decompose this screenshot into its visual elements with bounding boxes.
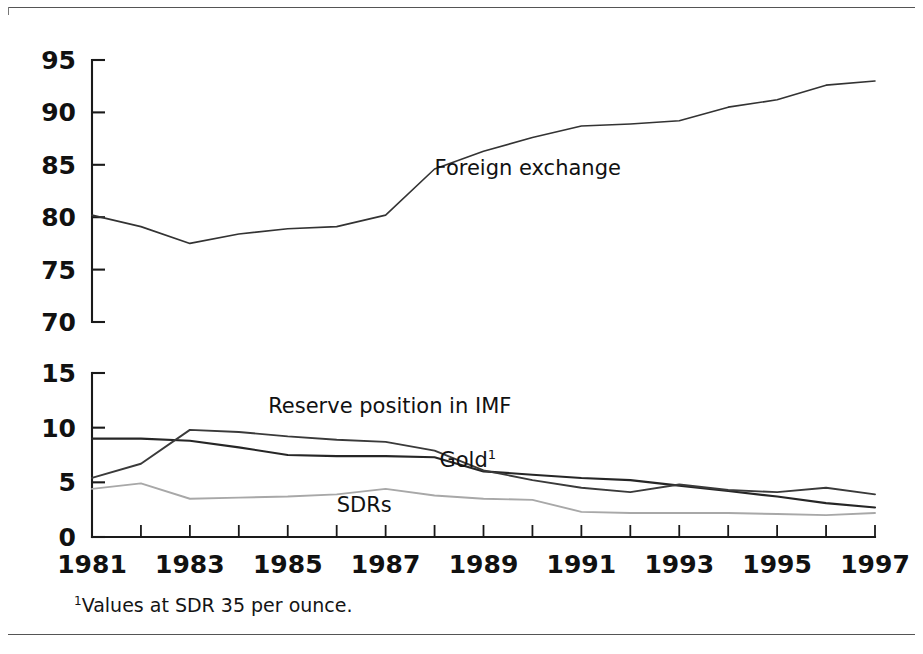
- bottom-chart-panel: 0510151981198319851987198919911993199519…: [41, 359, 910, 579]
- y-axis-tick-label: 15: [41, 359, 76, 388]
- series-label-foreign-exchange: Foreign exchange: [435, 156, 621, 180]
- y-axis-tick-label: 80: [41, 203, 76, 232]
- series-label-gold: Gold1: [439, 447, 496, 472]
- footnote-text: Values at SDR 35 per ounce.: [82, 594, 353, 616]
- x-axis-tick-label: 1985: [253, 550, 323, 579]
- x-axis-tick-label: 1983: [155, 550, 225, 579]
- y-axis-tick-label: 0: [59, 523, 76, 552]
- y-axis-tick-label: 5: [59, 468, 76, 497]
- footnote: 1Values at SDR 35 per ounce.: [74, 594, 353, 616]
- y-axis-tick-label: 75: [41, 256, 76, 285]
- series-label-reserve-position-in-imf: Reserve position in IMF: [268, 394, 511, 418]
- top-chart-panel: 707580859095Foreign exchange: [41, 46, 875, 337]
- series-line-sdrs: [92, 483, 875, 515]
- x-axis-tick-label: 1993: [644, 550, 714, 579]
- footnote-marker: 1: [74, 594, 82, 608]
- series-label-sdrs: SDRs: [337, 493, 392, 517]
- y-axis-tick-label: 90: [41, 98, 76, 127]
- x-axis-tick-label: 1997: [840, 550, 910, 579]
- series-label-superscript: 1: [488, 447, 496, 462]
- x-axis-tick-label: 1987: [351, 550, 421, 579]
- x-axis-tick-label: 1981: [57, 550, 127, 579]
- y-axis-tick-label: 70: [41, 308, 76, 337]
- y-axis-tick-label: 85: [41, 151, 76, 180]
- chart-canvas: 707580859095Foreign exchange 05101519811…: [0, 0, 923, 654]
- x-axis-tick-label: 1989: [449, 550, 519, 579]
- x-axis-tick-label: 1995: [742, 550, 812, 579]
- y-axis-tick-label: 95: [41, 46, 76, 75]
- figure-frame: 707580859095Foreign exchange 05101519811…: [0, 0, 923, 654]
- y-axis-tick-label: 10: [41, 414, 76, 443]
- x-axis-tick-label: 1991: [547, 550, 617, 579]
